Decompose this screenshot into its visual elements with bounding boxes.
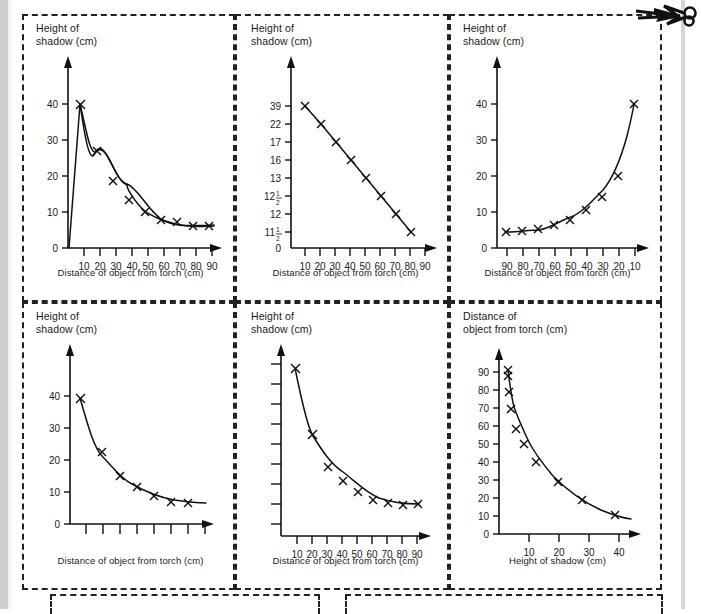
chart-6-data-markers — [504, 366, 619, 519]
page-edge-right-strip — [681, 0, 685, 609]
chart-5-y-ticks-unlabelled — [271, 364, 281, 524]
chart-3-plot: 0 10 20 30 40 90 80 70 60 50 40 30 — [455, 18, 660, 280]
chart-2-ytick-17: 17 — [270, 137, 282, 148]
chart-1: Height of shadow (cm) 0 10 20 30 40 — [28, 18, 233, 280]
chart-6-ytick-90: 90 — [478, 367, 490, 378]
chart-2-plot: 0 11 1 2 12 12 1 2 13 16 17 22 39 — [243, 18, 448, 280]
chart-6-ytick-60: 60 — [478, 421, 490, 432]
chart-3-ytick-40: 40 — [476, 99, 488, 110]
chart-4-ytick-10: 10 — [49, 487, 61, 498]
chart-2-ytick-12half-num: 1 — [276, 190, 280, 197]
chart-5: Height of shadow (cm) — [243, 306, 448, 568]
chart-2-ytick-39: 39 — [270, 101, 282, 112]
chart-1-x-axis-label: Distance of object from torch (cm) — [28, 267, 233, 278]
chart-4-ytick-0: 0 — [54, 519, 60, 530]
chart-5-x-axis-label: Distance of object from torch (cm) — [243, 555, 448, 566]
chart-2-ytick-12half: 12 — [264, 191, 276, 202]
chart-2-ytick-11half-den: 2 — [276, 235, 280, 242]
chart-2-ytick-0: 0 — [275, 243, 281, 254]
chart-5-data-markers — [291, 364, 422, 509]
chart-3-ytick-20: 20 — [476, 171, 488, 182]
chart-4-ytick-30: 30 — [49, 423, 61, 434]
page-edge-strip — [0, 0, 8, 609]
chart-3-data-markers — [502, 100, 638, 236]
chart-2-ytick-16: 16 — [270, 155, 282, 166]
chart-4-curve — [80, 398, 206, 503]
chart-4-data-markers — [76, 394, 192, 507]
chart-2-ytick-13: 13 — [270, 173, 282, 184]
chart-6-ytick-80: 80 — [478, 385, 490, 396]
chart-3-ytick-0: 0 — [481, 243, 487, 254]
chart-6-x-axis-label: Height of shadow (cm) — [455, 555, 660, 566]
chart-4-x-axis-label: Distance of object from torch (cm) — [28, 555, 233, 566]
chart-5-plot: 10 20 30 40 50 60 70 80 90 — [243, 306, 448, 568]
page-edge-inner-strip — [8, 0, 11, 609]
chart-1-ytick-40: 40 — [47, 99, 59, 110]
chart-2-ytick-11half: 11 — [265, 227, 276, 238]
chart-6-curve — [508, 370, 631, 519]
chart-3: Height of shadow (cm) 0 10 20 30 40 — [455, 18, 660, 280]
chart-2-ytick-12: 12 — [270, 209, 282, 220]
chart-1-plot: 0 10 20 30 40 10 20 30 40 50 60 — [28, 18, 233, 280]
chart-2: Height of shadow (cm) 0 11 1 2 12 12 — [243, 18, 448, 280]
chart-6: Distance of object from torch (cm) 0 10 … — [455, 306, 660, 568]
chart-6-ytick-50: 50 — [478, 439, 490, 450]
chart-3-x-axis-label: Distance of object from torch (cm) — [455, 267, 660, 278]
chart-1-ytick-20: 20 — [47, 171, 59, 182]
chart-6-ytick-70: 70 — [478, 403, 490, 414]
chart-3-curve — [505, 104, 634, 232]
bottom-cut-cell-left — [50, 594, 320, 614]
bottom-cut-cell-right — [345, 594, 663, 614]
chart-1-ytick-10: 10 — [47, 207, 59, 218]
chart-1-ytick-0: 0 — [52, 243, 58, 254]
chart-4-plot: 0 10 20 30 40 — [28, 306, 233, 568]
chart-6-ytick-40: 40 — [478, 457, 490, 468]
chart-4: Height of shadow (cm) 0 10 20 30 40 — [28, 306, 233, 568]
chart-2-x-axis-label: Distance of object from torch (cm) — [243, 267, 448, 278]
chart-4-ytick-40: 40 — [49, 391, 61, 402]
chart-4-ytick-20: 20 — [49, 455, 61, 466]
chart-6-ytick-30: 30 — [478, 475, 490, 486]
chart-2-ytick-22: 22 — [270, 119, 282, 130]
chart-1-ytick-30: 30 — [47, 135, 59, 146]
chart-3-ytick-10: 10 — [476, 207, 488, 218]
chart-1-curve-main — [80, 104, 214, 226]
chart-6-plot: 0 10 20 30 40 50 60 70 80 90 10 20 30 40 — [455, 306, 660, 568]
chart-4-x-ticks-unlabelled — [86, 524, 205, 534]
chart-6-ytick-10: 10 — [478, 511, 490, 522]
chart-2-ytick-11half-num: 1 — [276, 226, 280, 233]
chart-2-ytick-12half-den: 2 — [276, 199, 280, 206]
chart-6-ytick-0: 0 — [483, 529, 489, 540]
chart-3-ytick-30: 30 — [476, 135, 488, 146]
chart-6-ytick-20: 20 — [478, 493, 490, 504]
